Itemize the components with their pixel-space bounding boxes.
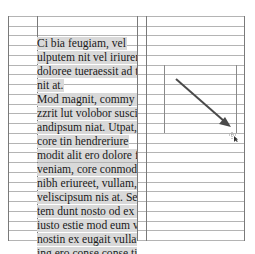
text-line-content: zzrit lut volobor suscil <box>37 107 137 120</box>
empty-frame[interactable] <box>164 65 237 133</box>
text-line-content: core tin hendreriure <box>37 135 129 148</box>
text-line: doloree tueraessit ad tat <box>37 65 137 79</box>
text-line-content: Ci bia feugiam, vel <box>37 37 127 50</box>
text-line: ulputem nit vel iriurem <box>37 51 137 65</box>
text-line: andipsum niat. Utpat, <box>37 121 137 135</box>
baseline-grid-line <box>8 16 245 17</box>
text-line-content: iusto estie mod eum vent <box>37 219 137 232</box>
column-guide-3 <box>146 16 147 241</box>
column-guide-left-margin <box>8 16 9 241</box>
text-frame[interactable]: Ci bia feugiam, vel ulputem nit vel iriu… <box>37 37 137 241</box>
text-line-content: veniam, core conmodig- <box>37 163 137 176</box>
text-line: zzrit lut volobor suscil <box>37 107 137 121</box>
text-line-content: ing ero conse conse tis <box>37 247 137 254</box>
resize-corner-icon[interactable] <box>229 128 239 138</box>
text-line: nostin ex eugait vullam <box>37 233 137 247</box>
text-line-content: doloree tueraessit ad tat <box>37 65 137 78</box>
text-line: iusto estie mod eum vent <box>37 219 137 233</box>
text-line-content: nostin ex eugait vullam <box>37 233 137 246</box>
text-line-content: Mod magnit, commy num <box>37 93 137 106</box>
baseline-grid-line <box>8 35 245 36</box>
text-line-content: veliscipsum nis at. Secte <box>37 191 137 204</box>
baseline-grid-line <box>8 26 245 27</box>
text-line: core tin hendreriure <box>37 135 137 149</box>
text-line: Mod magnit, commy num <box>37 93 137 107</box>
text-line: ing ero conse conse tis <box>37 247 137 254</box>
text-line-content: andipsum niat. Utpat, <box>37 121 137 134</box>
text-line-content: ulputem nit vel iriurem <box>37 51 137 64</box>
text-line: veliscipsum nis at. Secte <box>37 191 137 205</box>
text-line: tem dunt nosto od ex et <box>37 205 137 219</box>
text-line-content: modit alit ero dolore facin <box>37 149 137 162</box>
text-line: nit at. <box>37 79 137 93</box>
column-guide-right-margin <box>244 16 245 241</box>
text-line-content: nibh eriureet, vullam, <box>37 177 137 190</box>
text-line: Ci bia feugiam, vel <box>37 37 137 51</box>
crosshair-cursor-icon <box>229 132 239 142</box>
text-line: modit alit ero dolore facin <box>37 149 137 163</box>
text-line-content: nit at. <box>37 79 64 92</box>
text-line: veniam, core conmodig- <box>37 163 137 177</box>
text-line: nibh eriureet, vullam, <box>37 177 137 191</box>
column-guide-2 <box>137 16 138 241</box>
document-canvas[interactable]: Ci bia feugiam, vel ulputem nit vel iriu… <box>0 0 255 254</box>
text-line-content: tem dunt nosto od ex et <box>37 205 137 218</box>
